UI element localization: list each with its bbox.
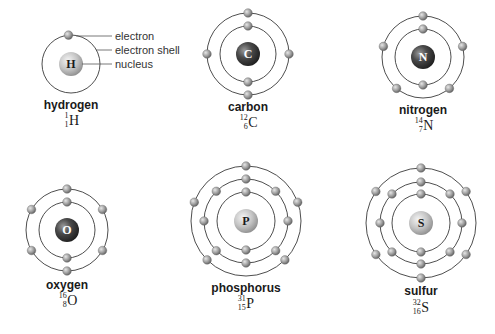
- electron: [417, 178, 426, 187]
- electron: [244, 78, 253, 87]
- atom-nitrogen: Nnitrogen147N: [379, 12, 467, 134]
- electron: [63, 198, 72, 207]
- isotope-symbol: O: [67, 293, 77, 308]
- electron: [446, 190, 455, 199]
- electron: [98, 246, 107, 255]
- atomic-number: 8: [63, 300, 67, 309]
- electron: [27, 205, 36, 214]
- electron: [27, 246, 36, 255]
- electron: [63, 267, 72, 276]
- atom-hydrogen: Hhydrogen11H: [42, 31, 100, 129]
- atomic-number: 1: [65, 120, 69, 129]
- electron: [417, 190, 426, 199]
- nucleus-symbol: H: [66, 57, 76, 71]
- isotope-notation: 3216S: [413, 298, 429, 316]
- isotope-symbol: N: [423, 118, 433, 133]
- electron: [417, 274, 426, 283]
- electron: [200, 217, 209, 226]
- isotope-notation: 168O: [59, 291, 78, 309]
- electron: [212, 187, 221, 196]
- element-name: oxygen: [46, 278, 88, 292]
- electron: [462, 250, 471, 259]
- electron: [372, 187, 381, 196]
- atoms-layer: Hhydrogen11HCcarbon126CNnitrogen147NOoxy…: [26, 9, 476, 316]
- atom-oxygen: Ooxygen168O: [26, 185, 108, 309]
- mass-number: 32: [413, 298, 421, 307]
- isotope-notation: 147N: [415, 116, 434, 134]
- element-name: nitrogen: [399, 103, 447, 117]
- electron: [417, 164, 426, 173]
- electron: [244, 9, 253, 18]
- electron: [244, 22, 253, 31]
- electron: [293, 198, 302, 207]
- electron: [376, 219, 385, 228]
- element-name: hydrogen: [44, 98, 99, 112]
- electron: [203, 50, 212, 59]
- isotope-notation: 3115P: [238, 294, 255, 312]
- nucleus-symbol: C: [244, 47, 253, 61]
- nucleus-symbol: P: [242, 214, 249, 228]
- isotope-symbol: C: [248, 115, 257, 130]
- electron: [419, 81, 428, 90]
- mass-number: 12: [240, 113, 248, 122]
- electron: [372, 250, 381, 259]
- isotope-symbol: P: [246, 296, 254, 311]
- electron: [417, 248, 426, 257]
- electron: [212, 246, 221, 255]
- isotope-symbol: S: [421, 300, 429, 315]
- mass-number: 1: [65, 111, 69, 120]
- electron-key-label: electron: [115, 30, 154, 42]
- electron: [242, 188, 251, 197]
- electron: [271, 187, 280, 196]
- electron: [388, 248, 397, 257]
- nucleus-symbol: S: [418, 216, 425, 230]
- electron: [281, 256, 290, 265]
- electron: [98, 205, 107, 214]
- atom-carbon: Ccarbon126C: [203, 9, 294, 131]
- electron: [462, 187, 471, 196]
- electron: [242, 259, 251, 268]
- electron-shell-key-label: electron shell: [115, 44, 180, 56]
- atomic-number: 6: [244, 122, 248, 131]
- electron: [285, 50, 294, 59]
- electron: [190, 198, 199, 207]
- electron: [284, 217, 293, 226]
- electron: [446, 248, 455, 257]
- isotope-symbol: H: [69, 113, 79, 128]
- element-name: sulfur: [404, 284, 438, 298]
- nucleus-symbol: O: [62, 223, 71, 237]
- isotope-notation: 11H: [65, 111, 80, 129]
- element-name: carbon: [228, 100, 268, 114]
- isotope-notation: 126C: [240, 113, 258, 131]
- atomic-number: 15: [238, 303, 246, 312]
- electron: [63, 185, 72, 194]
- mass-number: 14: [415, 116, 423, 125]
- nucleus-key-label: nucleus: [115, 58, 153, 70]
- element-name: phosphorus: [211, 281, 281, 295]
- electron: [244, 91, 253, 100]
- atomic-number: 7: [419, 125, 423, 134]
- electron: [242, 246, 251, 255]
- electron: [417, 260, 426, 269]
- atom-phosphorus: Pphosphorus3115P: [190, 162, 302, 312]
- electron: [242, 162, 251, 171]
- electron: [458, 42, 467, 51]
- nucleus-symbol: N: [419, 50, 428, 64]
- electron: [392, 84, 401, 93]
- electron: [271, 246, 280, 255]
- electron: [419, 12, 428, 21]
- electron: [63, 254, 72, 263]
- electron: [458, 219, 467, 228]
- atom-sulfur: Ssulfur3216S: [366, 164, 476, 316]
- electron: [242, 175, 251, 184]
- atom-diagram: Hhydrogen11HCcarbon126CNnitrogen147NOoxy…: [0, 0, 495, 334]
- electron: [64, 31, 73, 40]
- electron: [445, 84, 454, 93]
- mass-number: 31: [238, 294, 246, 303]
- electron: [379, 42, 388, 51]
- atomic-number: 16: [413, 307, 421, 316]
- diagram-key: electron electron shell nucleus: [76, 30, 180, 70]
- mass-number: 16: [59, 291, 67, 300]
- electron: [419, 25, 428, 34]
- electron: [388, 190, 397, 199]
